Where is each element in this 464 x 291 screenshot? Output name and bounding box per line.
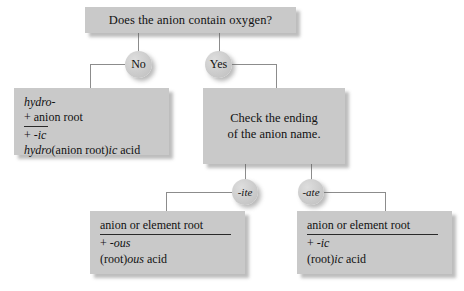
connector-question-to-no — [138, 32, 139, 53]
branch-label-ate: -ate — [302, 186, 319, 198]
question-box: Does the anion contain oxygen? — [85, 7, 296, 33]
question-text: Does the anion contain oxygen? — [109, 13, 272, 28]
ous-line-suffix: + -ous — [100, 234, 231, 251]
ic-acid-box: anion or element root + -ic (root)ic aci… — [297, 211, 452, 274]
hydro-result-post: acid — [117, 143, 140, 157]
connector-yes-horizontal — [232, 64, 276, 65]
ic-suffix-affix: -ic — [317, 236, 330, 250]
connector-ate-horizontal — [324, 192, 385, 193]
connector-no-down — [90, 64, 91, 88]
branch-bubble-yes[interactable]: Yes — [205, 51, 232, 78]
ous-result-pre: (root) — [100, 252, 127, 266]
hydro-line-prefix: hydro- — [24, 95, 169, 110]
hydro-result-affix: ic — [109, 143, 118, 157]
hydro-line-suffix: + -ic — [24, 126, 48, 143]
branch-label-ite: -ite — [238, 186, 253, 198]
connector-ite-down — [166, 192, 167, 211]
branch-label-no: No — [131, 57, 146, 72]
hydro-result-mid: (anion root) — [52, 143, 109, 157]
hydro-line-result: hydro(anion root)ic acid — [24, 143, 169, 158]
branch-bubble-ate[interactable]: -ate — [298, 179, 324, 205]
ic-line-root: anion or element root — [307, 218, 452, 233]
connector-question-to-yes — [219, 32, 220, 53]
ous-acid-box: anion or element root + -ous (root)ous a… — [90, 211, 245, 274]
ous-result-post: acid — [144, 252, 167, 266]
hydro-suffix-affix: -ic — [34, 128, 47, 142]
ic-suffix-plus: + — [307, 236, 317, 250]
flowchart-canvas: Does the anion contain oxygen? No Yes hy… — [0, 0, 464, 291]
ous-line-result: (root)ous acid — [100, 252, 245, 267]
ic-result-affix: ic — [334, 252, 343, 266]
ic-result-pre: (root) — [307, 252, 334, 266]
check-line-1: Check the ending — [230, 110, 317, 127]
hydro-line-root: + anion root — [24, 110, 169, 125]
connector-ite-horizontal — [166, 192, 232, 193]
ic-line-suffix: + -ic — [307, 234, 438, 251]
connector-no-horizontal — [90, 64, 125, 65]
branch-bubble-no[interactable]: No — [125, 51, 152, 78]
ous-suffix-plus: + — [100, 236, 110, 250]
hydro-result-pre: hydro — [24, 143, 52, 157]
ic-line-result: (root)ic acid — [307, 252, 452, 267]
branch-bubble-ite[interactable]: -ite — [232, 179, 258, 205]
hydro-acid-box: hydro- + anion root + -ic hydro(anion ro… — [14, 88, 169, 155]
ic-result-post: acid — [343, 252, 366, 266]
check-ending-box: Check the ending of the anion name. — [203, 88, 345, 164]
connector-ate-down — [385, 192, 386, 211]
connector-yes-down — [276, 64, 277, 88]
ous-line-root: anion or element root — [100, 218, 245, 233]
ous-suffix-affix: -ous — [110, 236, 131, 250]
check-line-2: of the anion name. — [227, 126, 320, 143]
ous-result-affix: ous — [127, 252, 144, 266]
branch-label-yes: Yes — [210, 57, 227, 72]
hydro-suffix-plus: + — [24, 128, 34, 142]
